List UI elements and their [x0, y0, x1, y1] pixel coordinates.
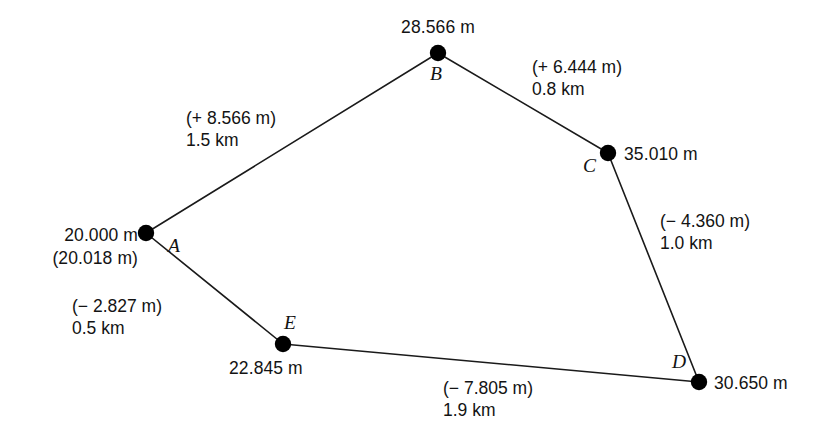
node-rl-c: 35.010 m: [624, 144, 698, 165]
segment-distance-b-c: 0.8 km: [532, 79, 622, 101]
node-dot-a: [138, 225, 154, 241]
node-letter-d: D: [672, 352, 686, 372]
node-dot-c: [600, 145, 616, 161]
segment-label-c-d: (− 4.360 m) 1.0 km: [660, 211, 750, 254]
traverse-edges: [146, 53, 699, 382]
node-dot-e: [275, 336, 291, 352]
segment-label-a-b: (+ 8.566 m) 1.5 km: [186, 108, 276, 151]
node-letter-a: A: [168, 236, 180, 256]
segment-rise-fall-c-d: (− 4.360 m): [660, 211, 750, 233]
node-letter-c: C: [583, 156, 596, 176]
edge-e-a: [146, 233, 283, 344]
traverse-diagram: A B C D E 20.000 m (20.018 m) 28.566 m 3…: [0, 0, 834, 444]
node-dot-d: [691, 374, 707, 390]
edge-c-d: [608, 153, 699, 382]
node-rl-b: 28.566 m: [348, 17, 528, 38]
segment-rise-fall-d-e: (− 7.805 m): [443, 378, 533, 400]
node-dot-b: [430, 45, 446, 61]
segment-label-d-e: (− 7.805 m) 1.9 km: [443, 378, 533, 421]
node-rl-e: 22.845 m: [229, 358, 303, 379]
segment-rise-fall-b-c: (+ 6.444 m): [532, 57, 622, 79]
segment-distance-d-e: 1.9 km: [443, 400, 533, 422]
segment-distance-c-d: 1.0 km: [660, 233, 750, 255]
segment-label-b-c: (+ 6.444 m) 0.8 km: [532, 57, 622, 100]
segment-label-e-a: (− 2.827 m) 0.5 km: [72, 296, 162, 339]
segment-rise-fall-e-a: (− 2.827 m): [72, 296, 162, 318]
segment-distance-e-a: 0.5 km: [72, 318, 162, 340]
segment-rise-fall-a-b: (+ 8.566 m): [186, 108, 276, 130]
node-rl-a: 20.000 m: [0, 225, 138, 246]
node-letter-e: E: [284, 313, 296, 333]
node-rl-adjusted-a: (20.018 m): [0, 248, 138, 269]
node-letter-b: B: [430, 64, 442, 84]
edge-d-e: [283, 344, 699, 382]
segment-distance-a-b: 1.5 km: [186, 130, 276, 152]
node-rl-d: 30.650 m: [714, 373, 788, 394]
